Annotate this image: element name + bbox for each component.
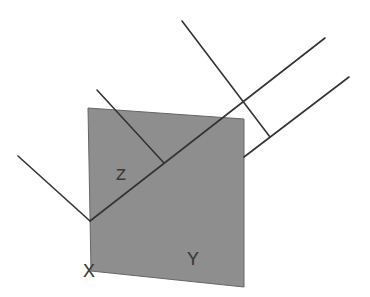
label-x: X (83, 260, 95, 283)
gray-plane (88, 108, 244, 287)
diagram-canvas: z Y X (0, 0, 370, 297)
label-z: z (115, 163, 127, 186)
incident-ray-line (18, 156, 90, 221)
label-y: Y (187, 248, 199, 271)
